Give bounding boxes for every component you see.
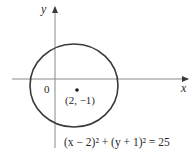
equation-label: (x − 2)² + (y + 1)² = 25 [64,136,170,149]
coordinate-plane: y x 0 (2, −1) (x − 2)² + (y + 1)² = 25 [0,0,194,161]
center-label: (2, −1) [65,94,95,107]
x-axis-label: x [180,81,187,95]
y-axis-label: y [40,2,47,16]
origin-label: 0 [44,83,50,95]
center-point [75,88,79,92]
